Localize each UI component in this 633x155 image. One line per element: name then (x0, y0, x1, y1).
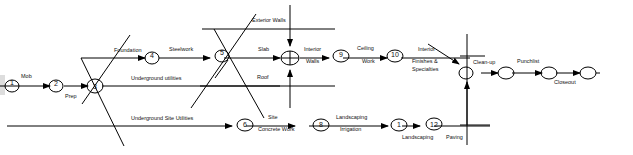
label-foundation: Foundation (114, 47, 142, 53)
node-9-label: 9 (339, 51, 343, 58)
label-landscaping-top: Landscaping (336, 114, 367, 120)
node-14 (498, 67, 514, 79)
node-11-label: 1 (397, 121, 401, 128)
label-walls: Walls (306, 58, 319, 64)
label-slab: Slab (258, 46, 269, 52)
label-interior: Interior (304, 46, 321, 52)
label-underground-site-utilities: Underground Site Utilities (131, 115, 194, 121)
label-site: Site (268, 114, 277, 120)
node-5-label: 5 (220, 49, 224, 56)
node-2-label: 2 (54, 80, 58, 87)
label-paving: Paving (446, 134, 463, 140)
label-specialties: Specialties (412, 66, 439, 72)
node-10-label: 10 (391, 51, 399, 58)
label-prep: Prep (65, 93, 77, 99)
label-closeout: Closeout (554, 79, 576, 85)
node-15 (541, 67, 557, 79)
label-roof: Roof (257, 74, 269, 80)
node-3-label: 3 (93, 83, 97, 90)
node-8-label: 8 (319, 121, 323, 128)
label-mob: Mob (21, 73, 32, 79)
label-ceiling: Ceiling (357, 45, 374, 51)
label-underground-utilities: Underground utilities (131, 75, 182, 81)
label-concrete-work: Concrete Work (258, 126, 295, 132)
label-clean-up: Clean-up (473, 59, 495, 65)
node-12-label: 12 (430, 121, 438, 128)
label-work: Work (362, 58, 375, 64)
label-exterior-walls: Exterior Walls (252, 17, 286, 23)
label-punchlist: Punchlist (517, 58, 540, 64)
node-16 (580, 67, 596, 79)
label-interior-finishes: Interior (418, 46, 435, 52)
node-13 (459, 67, 473, 79)
node-6-label: 6 (243, 121, 247, 128)
node-1-label: 1 (10, 79, 14, 86)
label-irrigation: Irrigation (340, 126, 361, 132)
label-steelwork: Steelwork (169, 46, 193, 52)
label-finishes: Finishes & (412, 58, 438, 64)
label-landscaping-bottom: Landscaping (402, 134, 433, 140)
network-diagram: 1 2 3 4 5 9 10 6 8 1 12 Mob Prep Foundat… (0, 0, 633, 155)
node-4-label: 4 (150, 52, 154, 59)
